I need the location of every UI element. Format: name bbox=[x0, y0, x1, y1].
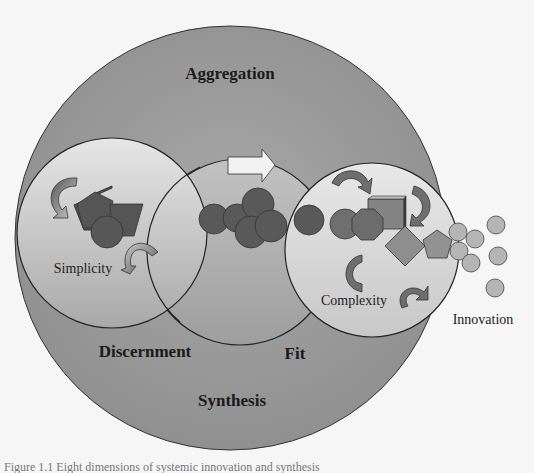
innovation-circles bbox=[449, 216, 507, 297]
label-fit: Fit bbox=[285, 344, 306, 363]
label-discernment: Discernment bbox=[99, 342, 192, 361]
label-complexity: Complexity bbox=[321, 293, 387, 308]
label-innovation: Innovation bbox=[453, 312, 514, 327]
figure-caption: Figure 1.1 Eight dimensions of systemic … bbox=[4, 460, 320, 473]
octagon-shape bbox=[352, 209, 383, 240]
label-simplicity: Simplicity bbox=[54, 261, 112, 276]
label-aggregation: Aggregation bbox=[185, 64, 275, 83]
circle-shape bbox=[91, 216, 123, 248]
label-synthesis: Synthesis bbox=[198, 391, 266, 410]
innovation-diagram: Aggregation Discernment Fit Synthesis Si… bbox=[0, 0, 534, 473]
